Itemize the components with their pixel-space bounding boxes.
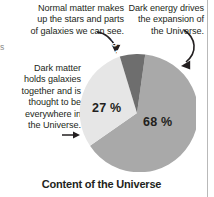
universe-content-figure: s Normal matter makes up the stars and p… <box>0 0 214 197</box>
annotation-dark-energy-line-2: the expansion of <box>124 14 204 25</box>
chart-title: Content of the Universe <box>0 178 203 190</box>
column-divider-rule <box>207 0 208 197</box>
annotation-dark-matter-line-3: together and is <box>4 86 81 97</box>
annotation-dark-matter-line-1: Dark matter <box>4 63 81 74</box>
annotation-dark-matter-line-5: everywhere in <box>4 109 81 120</box>
annotation-normal-matter-line-1: Normal matter makes <box>18 3 124 14</box>
pie-label-normal-matter: 5 % <box>110 37 122 56</box>
pie-label-dark-matter: 27 % <box>92 101 121 115</box>
annotation-dark-matter-line-4: thought to be <box>4 97 81 108</box>
adjacent-column-text-sliver: s <box>0 42 9 52</box>
annotation-normal-matter-line-2: up the stars and parts <box>18 14 124 25</box>
pie-label-dark-energy: 68 % <box>143 115 172 129</box>
annotation-dark-matter-line-2: holds galaxies <box>4 74 81 85</box>
annotation-dark-matter: Dark matter holds galaxies together and … <box>4 63 81 131</box>
annotation-dark-energy-line-1: Dark energy drives <box>124 3 204 14</box>
